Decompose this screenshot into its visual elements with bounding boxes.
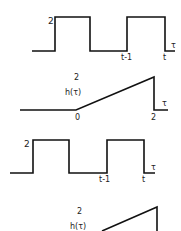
- convolution-diagram: 2 t-1 t τ 2 h(τ) 0 2 τ 2 t-1 t τ 2 h(τ): [0, 0, 181, 231]
- tau-axis-label: τ: [151, 163, 156, 172]
- t-label: t: [163, 53, 166, 62]
- h-tau-label: h(τ): [70, 222, 86, 231]
- two-label: 2: [151, 113, 156, 122]
- impulse-response-panel-2: 2 h(τ): [70, 207, 157, 231]
- amplitude-label: 2: [74, 73, 79, 82]
- pulse-train-panel-1: 2 t-1 t τ: [32, 16, 176, 62]
- t-label: t: [142, 175, 145, 184]
- pulse-train-panel-2: 2 t-1 t τ: [10, 139, 156, 184]
- pulse-train-trace: [10, 140, 155, 173]
- impulse-response-panel-1: 2 h(τ) 0 2 τ: [20, 73, 168, 122]
- h-tau-label: h(τ): [65, 88, 81, 97]
- t-minus-1-label: t-1: [121, 53, 132, 62]
- amplitude-label: 2: [77, 207, 82, 216]
- impulse-response-trace: [102, 207, 157, 231]
- amplitude-label: 2: [24, 139, 30, 149]
- t-minus-1-label: t-1: [99, 175, 110, 184]
- tau-axis-label: τ: [162, 99, 167, 108]
- amplitude-label: 2: [48, 16, 54, 26]
- zero-label: 0: [75, 113, 80, 122]
- impulse-response-trace: [20, 77, 168, 110]
- tau-axis-label: τ: [171, 41, 176, 50]
